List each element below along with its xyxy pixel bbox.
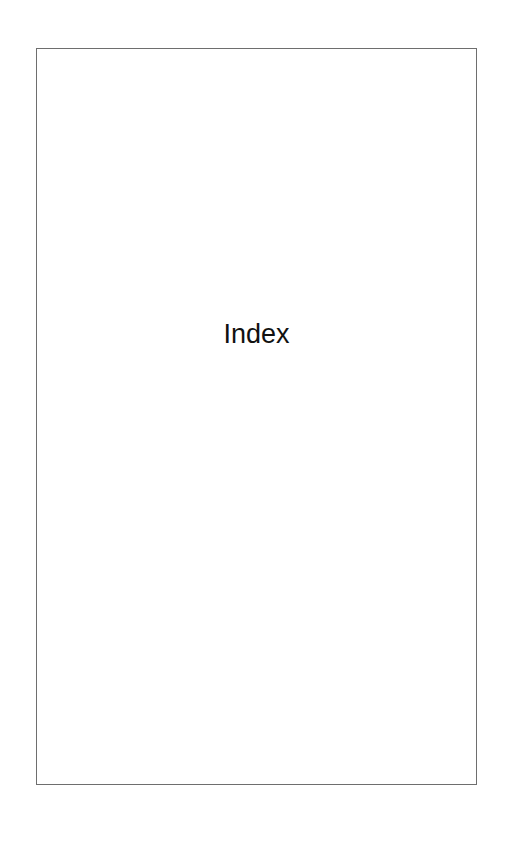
page-frame: Index <box>36 48 477 785</box>
page-title: Index <box>37 319 476 350</box>
